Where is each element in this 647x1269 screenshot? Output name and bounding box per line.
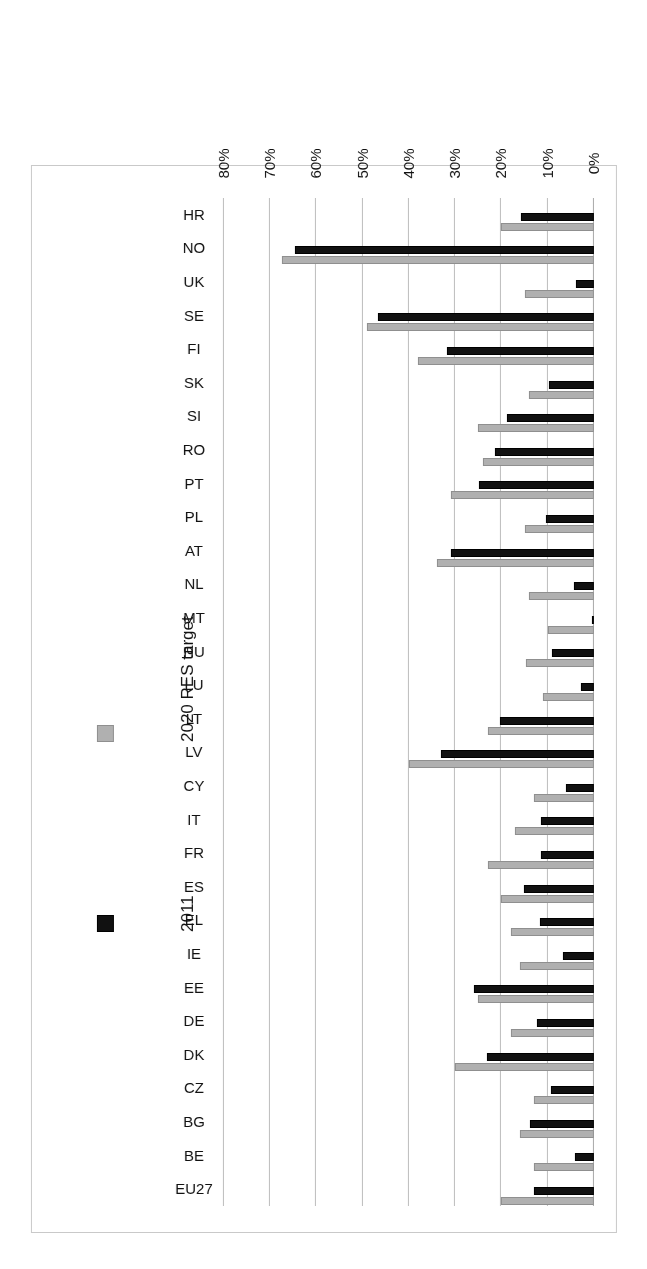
category-label-cz: CZ [168,1078,220,1098]
axis-tick-label: 50% [354,132,371,196]
category-label-si: SI [168,406,220,426]
category-label-de: DE [168,1011,220,1031]
category-label-se: SE [168,306,220,326]
bar-2011 [563,952,594,960]
category-label-fi: FI [168,339,220,359]
bar-2011 [507,414,594,422]
legend-swatch-icon [97,915,114,932]
bar-row [224,904,594,938]
bar-2020-res-target [483,458,594,466]
category-label-be: BE [168,1146,220,1166]
bar-2020-res-target [529,391,594,399]
bar-2011 [479,481,594,489]
bar-2020-res-target [455,1063,594,1071]
bar-2011 [521,213,594,221]
bar-2011 [541,851,594,859]
bar-2020-res-target [502,1197,595,1205]
category-label-no: NO [168,238,220,258]
bar-2020-res-target [367,323,594,331]
bar-2011 [295,246,594,254]
bar-2020-res-target [511,928,594,936]
bar-row [224,500,594,534]
category-label-hr: HR [168,205,220,225]
bar-row [224,971,594,1005]
category-label-ro: RO [168,440,220,460]
bar-2020-res-target [488,727,594,735]
bar-2011 [575,1153,594,1161]
bar-2011 [537,1019,594,1027]
bar-row [224,1038,594,1072]
bar-2011 [552,649,594,657]
axis-tick-label: 30% [447,132,464,196]
bar-2011 [378,313,594,321]
bar-2011 [546,515,594,523]
axis-tick-label: 60% [308,132,325,196]
bar-2020-res-target [451,491,594,499]
bar-2011 [530,1120,594,1128]
category-label-ee: EE [168,978,220,998]
bar-row [224,668,594,702]
bar-2011 [541,817,594,825]
category-label-sk: SK [168,373,220,393]
bar-row [224,400,594,434]
chart-frame: EU27BEBGCZDKDEEEIEELESFRITCYLVLTLUHUMTNL… [31,165,617,1233]
bar-2011 [581,683,594,691]
bar-row [224,467,594,501]
bar-2020-res-target [478,995,594,1003]
category-label-dk: DK [168,1045,220,1065]
bar-2020-res-target [502,895,595,903]
legend-label: 2011 [178,772,198,932]
bar-row [224,836,594,870]
bar-2020-res-target [534,1163,594,1171]
bar-row [224,366,594,400]
bar-2011 [487,1053,594,1061]
category-label-pt: PT [168,474,220,494]
bar-2020-res-target [418,357,594,365]
bar-2011 [451,549,594,557]
bar-2011 [574,582,594,590]
bar-row [224,769,594,803]
bar-2011 [500,717,594,725]
bar-2020-res-target [548,626,594,634]
axis-tick-label: 40% [401,132,418,196]
bar-2020-res-target [515,827,594,835]
legend-swatch-icon [97,725,114,742]
bar-2020-res-target [511,1029,594,1037]
bar-2011 [524,885,594,893]
bar-row [224,736,594,770]
bar-2020-res-target [282,256,594,264]
category-label-pl: PL [168,507,220,527]
axis-tick-label: 80% [216,132,233,196]
bar-row [224,299,594,333]
bar-row [224,433,594,467]
category-label-ie: IE [168,944,220,964]
legend-label: 2020 RES target [178,582,198,742]
axis-tick-label: 20% [493,132,510,196]
bar-2011 [540,918,594,926]
bar-2020-res-target [478,424,594,432]
bar-2020-res-target [502,223,595,231]
bar-row [224,1139,594,1173]
bar-row [224,601,594,635]
category-label-uk: UK [168,272,220,292]
bar-2020-res-target [534,794,594,802]
bar-2011 [549,381,594,389]
bar-row [224,1004,594,1038]
bar-row [224,198,594,232]
category-label-at: AT [168,541,220,561]
bar-2020-res-target [437,559,594,567]
bar-row [224,937,594,971]
bar-row [224,265,594,299]
bar-2020-res-target [526,659,594,667]
axis-tick-label: 70% [262,132,279,196]
bar-row [224,1172,594,1206]
bar-2020-res-target [525,525,594,533]
bar-2020-res-target [409,760,594,768]
bar-2020-res-target [534,1096,594,1104]
bar-2020-res-target [529,592,594,600]
chart-page: EU27BEBGCZDKDEEEIEELESFRITCYLVLTLUHUMTNL… [0,0,647,1269]
bar-row [224,332,594,366]
bar-2011 [576,280,594,288]
bar-2011 [474,985,594,993]
bar-rows [224,198,594,1206]
